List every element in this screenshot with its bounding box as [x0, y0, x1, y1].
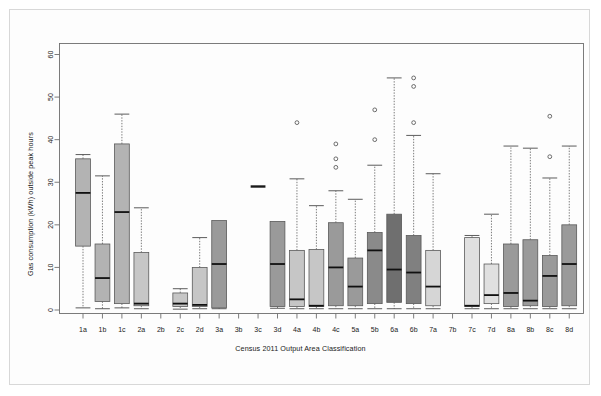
- box-3d: [270, 221, 285, 308]
- box-4c: [328, 142, 343, 309]
- x-axis-title: Census 2011 Output Area Classification: [0, 344, 601, 353]
- x-tick-label: 7a: [429, 326, 437, 333]
- y-tick-label: 50: [47, 93, 54, 101]
- box-rect: [348, 258, 363, 306]
- y-tick-label: 10: [47, 263, 54, 271]
- x-tick-label: 2a: [137, 326, 145, 333]
- box-rect: [95, 244, 110, 301]
- box-rect: [367, 232, 382, 303]
- x-tick-label: 5b: [371, 326, 379, 333]
- box-6a: [387, 78, 402, 309]
- x-tick-label: 7d: [488, 326, 496, 333]
- x-tick-label: 7b: [449, 326, 457, 333]
- outlier-point: [334, 142, 338, 146]
- y-tick-label: 0: [47, 308, 54, 312]
- box-2d: [192, 238, 207, 309]
- x-tick-label: 1c: [118, 326, 126, 333]
- outlier-point: [334, 165, 338, 169]
- outlier-point: [548, 114, 552, 118]
- x-tick-label: 4b: [313, 326, 321, 333]
- figure-canvas: 01020304050601a1b1c2a2b2c2d3a3b3c3d4a4b4…: [0, 0, 601, 396]
- outlier-point: [295, 121, 299, 125]
- box-rect: [406, 235, 421, 303]
- box-rect: [328, 223, 343, 306]
- x-tick-label: 3b: [235, 326, 243, 333]
- y-tick-label: 30: [47, 178, 54, 186]
- box-rect: [387, 214, 402, 302]
- box-1c: [115, 114, 130, 308]
- box-rect: [542, 255, 557, 306]
- x-tick-label: 8a: [507, 326, 515, 333]
- x-tick-label: 1b: [99, 326, 107, 333]
- box-2a: [134, 208, 149, 309]
- x-tick-label: 3a: [215, 326, 223, 333]
- y-tick-label: 20: [47, 221, 54, 229]
- box-4a: [290, 121, 305, 309]
- x-tick-label: 8c: [546, 326, 554, 333]
- box-3a: [212, 221, 227, 309]
- box-rect: [173, 293, 188, 307]
- x-tick-label: 2d: [196, 326, 204, 333]
- box-rect: [426, 250, 441, 305]
- y-tick-label: 60: [47, 51, 54, 59]
- box-1b: [95, 176, 110, 309]
- x-tick-label: 8b: [526, 326, 534, 333]
- x-tick-label: 2b: [157, 326, 165, 333]
- x-tick-label: 1a: [79, 326, 87, 333]
- outlier-point: [334, 157, 338, 161]
- box-7d: [484, 214, 499, 309]
- x-tick-label: 3c: [254, 326, 262, 333]
- outlier-point: [412, 85, 416, 89]
- box-7c: [465, 235, 480, 308]
- x-tick-label: 3d: [274, 326, 282, 333]
- y-tick-label: 40: [47, 136, 54, 144]
- x-tick-label: 8d: [565, 326, 573, 333]
- x-tick-label: 6a: [390, 326, 398, 333]
- box-rect: [76, 159, 91, 246]
- y-axis-title: Gas consumption (kWh) outside peak hours: [26, 132, 35, 276]
- box-1a: [76, 155, 91, 308]
- box-rect: [465, 238, 480, 307]
- box-6b: [406, 76, 421, 309]
- box-2c: [173, 289, 188, 309]
- outlier-point: [373, 138, 377, 142]
- x-tick-label: 2c: [177, 326, 185, 333]
- box-8a: [504, 146, 519, 309]
- outlier-point: [412, 76, 416, 80]
- outlier-point: [412, 121, 416, 125]
- box-rect: [484, 264, 499, 304]
- box-5b: [367, 108, 382, 309]
- box-4b: [309, 206, 324, 309]
- box-rect: [134, 253, 149, 306]
- outlier-point: [373, 108, 377, 112]
- box-rect: [309, 250, 324, 307]
- boxplot-chart: 01020304050601a1b1c2a2b2c2d3a3b3c3d4a4b4…: [0, 0, 601, 396]
- box-rect: [504, 244, 519, 307]
- x-tick-label: 4c: [332, 326, 340, 333]
- box-rect: [562, 225, 577, 306]
- x-tick-label: 4a: [293, 326, 301, 333]
- box-rect: [290, 250, 305, 306]
- box-rect: [192, 267, 207, 306]
- x-tick-label: 5a: [351, 326, 359, 333]
- box-5a: [348, 199, 363, 308]
- box-8d: [562, 146, 577, 309]
- box-8c: [542, 114, 557, 308]
- x-tick-label: 6b: [410, 326, 418, 333]
- box-rect: [523, 240, 538, 306]
- box-8b: [523, 148, 538, 309]
- box-rect: [115, 144, 130, 304]
- box-7a: [426, 174, 441, 309]
- x-tick-label: 7c: [468, 326, 476, 333]
- outlier-point: [548, 155, 552, 159]
